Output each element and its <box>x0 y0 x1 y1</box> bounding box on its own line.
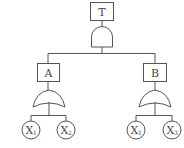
event-node-a: A <box>38 64 60 82</box>
event-b-label: B <box>151 67 159 80</box>
basic-event-x3-b: X 3 <box>163 121 181 139</box>
fault-tree-diagram: T A X 1 X 2 B X 1 <box>0 0 184 148</box>
basic-event-x1-a: X 1 <box>22 121 40 139</box>
top-event-node: T <box>91 3 114 21</box>
subscript: 3 <box>174 129 178 136</box>
event-node-b: B <box>144 64 167 82</box>
and-gate-icon <box>92 27 113 47</box>
basic-event-x1-b: X 1 <box>127 121 145 139</box>
subscript: 1 <box>33 129 37 136</box>
top-event-label: T <box>98 6 106 19</box>
subscript: 2 <box>68 129 72 136</box>
event-a-label: A <box>44 67 54 80</box>
basic-event-x2-a: X 2 <box>57 121 75 139</box>
subscript: 1 <box>138 129 142 136</box>
